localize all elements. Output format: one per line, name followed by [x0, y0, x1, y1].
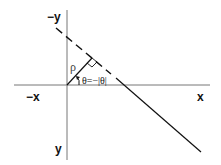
- arrowhead-icon: [76, 76, 80, 80]
- rho-label: ρ: [70, 60, 76, 74]
- neg-y-label: −y: [47, 10, 61, 24]
- solid-line: [116, 78, 201, 152]
- theta-label: θ=−|θ|: [82, 75, 107, 86]
- rho-theta-diagram: −y y −x x ρ θ=−|θ|: [0, 0, 221, 165]
- pos-x-label: x: [197, 90, 204, 104]
- neg-x-label: −x: [26, 90, 40, 104]
- pos-y-label: y: [55, 142, 62, 156]
